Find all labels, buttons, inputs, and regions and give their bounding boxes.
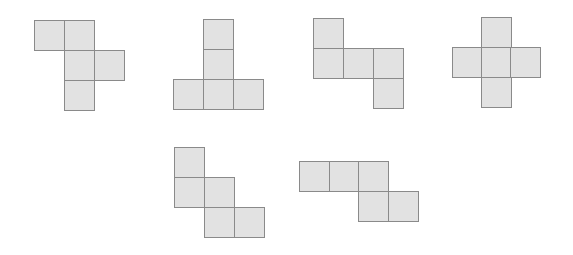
- net-square: [174, 177, 205, 208]
- net-square: [203, 19, 234, 50]
- net-square: [64, 80, 95, 111]
- net-square: [481, 47, 512, 78]
- net-square: [313, 48, 344, 79]
- net-square: [299, 161, 330, 192]
- net-square: [234, 207, 265, 238]
- net-square: [64, 50, 95, 81]
- net-square: [204, 177, 235, 208]
- net-square: [481, 17, 512, 48]
- net-square: [204, 207, 235, 238]
- net-square: [452, 47, 483, 78]
- net-square: [358, 161, 389, 192]
- net-square: [388, 191, 419, 222]
- net-square: [343, 48, 374, 79]
- net-square: [174, 147, 205, 178]
- net-square: [203, 49, 234, 80]
- net-square: [329, 161, 360, 192]
- diagram-canvas: [0, 0, 573, 255]
- net-square: [481, 77, 512, 108]
- net-square: [313, 18, 344, 49]
- net-square: [64, 20, 95, 51]
- net-square: [373, 48, 404, 79]
- net-square: [203, 79, 234, 110]
- net-square: [373, 78, 404, 109]
- net-square: [34, 20, 65, 51]
- net-square: [173, 79, 204, 110]
- net-square: [94, 50, 125, 81]
- net-square: [358, 191, 389, 222]
- net-square: [233, 79, 264, 110]
- net-square: [510, 47, 541, 78]
